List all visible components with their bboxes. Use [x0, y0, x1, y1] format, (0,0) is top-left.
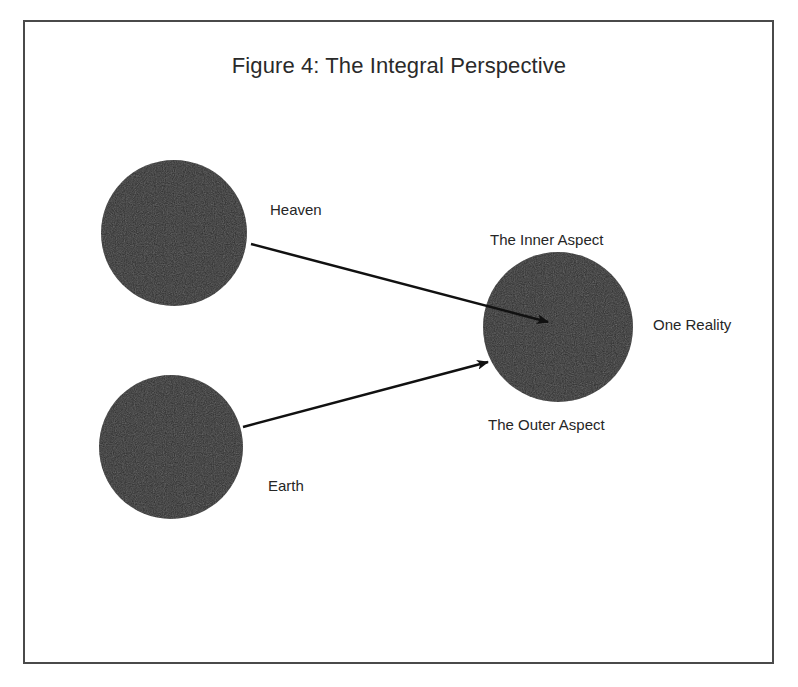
earth-label: Earth: [268, 477, 304, 494]
one-reality-label: One Reality: [653, 316, 731, 333]
inner-aspect-label: The Inner Aspect: [490, 231, 603, 248]
earth-circle: [99, 375, 243, 519]
heaven-circle: [101, 160, 247, 306]
outer-aspect-label: The Outer Aspect: [488, 416, 605, 433]
diagram-canvas: [0, 0, 798, 687]
one-reality-circle: [483, 252, 633, 402]
heaven-label: Heaven: [270, 201, 322, 218]
arrow-earth-to-reality: [243, 362, 488, 427]
